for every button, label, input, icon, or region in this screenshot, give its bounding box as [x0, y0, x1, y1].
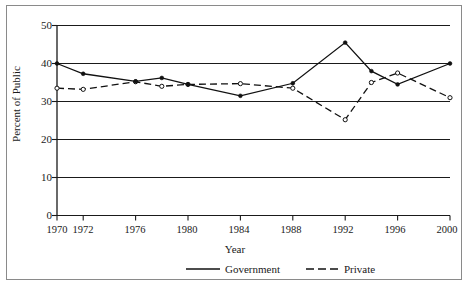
- series-line-government: [55, 41, 452, 98]
- y-tick-marks: [52, 26, 57, 216]
- chart-plot-area: [0, 0, 470, 287]
- chart-figure: 50 40 30 20 10 0 1970 1972 1976 1980 198…: [0, 0, 470, 287]
- x-tick-marks: [57, 216, 450, 221]
- gridlines: [57, 26, 450, 216]
